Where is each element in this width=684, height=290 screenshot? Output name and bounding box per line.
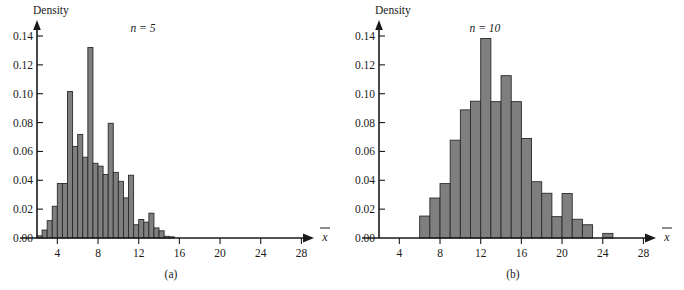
bar-series-b bbox=[420, 38, 613, 238]
x-tick-label: 24 bbox=[597, 247, 609, 259]
y-tick-label: 0.06 bbox=[13, 145, 33, 157]
sample-size-annotation-b: n = 10 bbox=[470, 22, 501, 34]
histogram-bar bbox=[98, 166, 103, 238]
panel-caption-a: (a) bbox=[165, 268, 178, 281]
y-tick-label: 0.10 bbox=[13, 88, 33, 100]
x-tick-label: 12 bbox=[133, 247, 145, 259]
histogram-bar bbox=[532, 182, 542, 238]
histogram-bar bbox=[562, 194, 572, 238]
x-axis-symbol-a: x bbox=[320, 228, 330, 244]
histogram-bar bbox=[139, 220, 144, 238]
y-axis-a: 0.000.020.040.060.080.100.120.14 bbox=[13, 20, 43, 244]
x-tick-group-a: 481216202428 bbox=[54, 238, 307, 259]
histogram-bar bbox=[430, 198, 440, 238]
y-tick-label: 0.14 bbox=[13, 30, 33, 42]
histogram-bar bbox=[73, 146, 78, 238]
histogram-bar bbox=[113, 172, 118, 238]
y-axis-title-a: Density bbox=[33, 4, 69, 17]
y-tick-label: 0.08 bbox=[13, 117, 33, 129]
histogram-bar bbox=[129, 175, 134, 238]
y-tick-label: 0.12 bbox=[355, 59, 375, 71]
x-axis-arrow-icon bbox=[645, 234, 656, 243]
histogram-bar bbox=[471, 101, 481, 238]
x-tick-label: 28 bbox=[638, 247, 650, 259]
histogram-panel-b: 0.000.020.040.060.080.100.120.14 4812162… bbox=[342, 0, 684, 290]
y-tick-label: 0.04 bbox=[13, 174, 33, 186]
y-axis-arrow-icon bbox=[33, 20, 41, 30]
histogram-bar bbox=[511, 102, 521, 238]
x-tick-label: 4 bbox=[54, 247, 60, 259]
x-tick-label: 20 bbox=[214, 247, 226, 259]
two-histogram-figure: 0.000.020.040.060.080.100.120.14 4812162… bbox=[0, 0, 684, 290]
y-tick-label: 0.02 bbox=[355, 203, 375, 215]
y-tick-label: 0.14 bbox=[355, 30, 375, 42]
x-axis-a: 481216202428 bbox=[20, 234, 314, 259]
panel-caption-b: (b) bbox=[506, 268, 520, 281]
x-tick-label: 20 bbox=[556, 247, 568, 259]
x-tick-label: 16 bbox=[174, 247, 186, 259]
histogram-bar bbox=[42, 230, 47, 238]
y-tick-group-a: 0.000.020.040.060.080.100.120.14 bbox=[13, 30, 43, 244]
histogram-bar bbox=[103, 175, 108, 238]
x-axis-symbol-label-b: x bbox=[663, 230, 670, 244]
bar-series-a bbox=[37, 48, 174, 238]
y-tick-label: 0.08 bbox=[355, 117, 375, 129]
histogram-bar bbox=[93, 163, 98, 238]
sample-size-annotation-a: n = 5 bbox=[130, 22, 155, 34]
x-axis-arrow-icon bbox=[303, 234, 314, 243]
histogram-bar bbox=[440, 184, 450, 238]
histogram-bar bbox=[552, 217, 562, 238]
y-axis-arrow-icon bbox=[375, 20, 383, 30]
histogram-svg-a: 0.000.020.040.060.080.100.120.14 4812162… bbox=[0, 0, 342, 290]
histogram-bar bbox=[460, 110, 470, 238]
y-axis-b: 0.000.020.040.060.080.100.120.14 bbox=[355, 20, 385, 244]
x-tick-label: 24 bbox=[255, 247, 267, 259]
histogram-bar bbox=[123, 198, 128, 238]
histogram-bar bbox=[521, 138, 531, 238]
histogram-bar bbox=[134, 225, 139, 238]
x-tick-label: 28 bbox=[296, 247, 308, 259]
histogram-bar bbox=[582, 225, 592, 238]
x-tick-label: 8 bbox=[95, 247, 101, 259]
x-axis-symbol-b: x bbox=[662, 228, 672, 244]
histogram-bar bbox=[154, 228, 159, 238]
histogram-bar bbox=[491, 102, 501, 238]
y-tick-label: 0.04 bbox=[355, 174, 375, 186]
histogram-bar bbox=[108, 123, 113, 238]
histogram-bar bbox=[542, 193, 552, 238]
x-tick-group-b: 481216202428 bbox=[396, 238, 649, 259]
histogram-bar bbox=[52, 206, 57, 238]
histogram-bar bbox=[68, 92, 73, 238]
x-axis-symbol-label-a: x bbox=[321, 230, 328, 244]
histogram-bar bbox=[47, 221, 52, 238]
y-tick-label: 0.12 bbox=[13, 59, 33, 71]
histogram-bar bbox=[159, 231, 164, 238]
x-axis-b: 481216202428 bbox=[362, 234, 656, 259]
histogram-bar bbox=[481, 38, 491, 238]
histogram-bar bbox=[62, 183, 67, 238]
plot-area-a bbox=[37, 48, 174, 238]
histogram-bar bbox=[450, 140, 460, 238]
histogram-bar bbox=[144, 222, 149, 238]
histogram-bar bbox=[88, 48, 93, 238]
y-tick-group-b: 0.000.020.040.060.080.100.120.14 bbox=[355, 30, 385, 244]
y-axis-title-b: Density bbox=[375, 4, 411, 17]
y-tick-label: 0.06 bbox=[355, 145, 375, 157]
x-tick-label: 16 bbox=[516, 247, 528, 259]
histogram-bar bbox=[501, 76, 511, 238]
histogram-bar bbox=[118, 181, 123, 238]
histogram-bar bbox=[78, 134, 83, 238]
histogram-bar bbox=[572, 219, 582, 238]
histogram-panel-a: 0.000.020.040.060.080.100.120.14 4812162… bbox=[0, 0, 342, 290]
x-tick-label: 4 bbox=[396, 247, 402, 259]
x-tick-label: 12 bbox=[475, 247, 487, 259]
plot-area-b bbox=[420, 38, 613, 238]
histogram-svg-b: 0.000.020.040.060.080.100.120.14 4812162… bbox=[342, 0, 684, 290]
x-tick-label: 8 bbox=[437, 247, 443, 259]
histogram-bar bbox=[57, 183, 62, 238]
histogram-bar bbox=[420, 216, 430, 238]
y-tick-label: 0.02 bbox=[13, 203, 33, 215]
histogram-bar bbox=[83, 157, 88, 238]
histogram-bar bbox=[149, 213, 154, 238]
y-tick-label: 0.10 bbox=[355, 88, 375, 100]
